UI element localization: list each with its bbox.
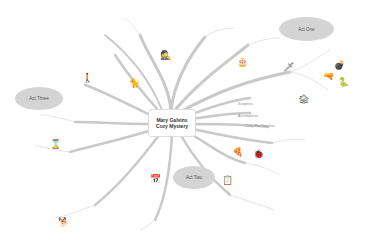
act-three-node[interactable]: Act Three xyxy=(15,87,63,110)
calendar-icon: 📅 xyxy=(150,175,161,184)
bug-icon: 🐞 xyxy=(253,150,264,159)
branch-label-suspects[interactable]: Suspects xyxy=(238,102,253,106)
cat-icon: 🐈 xyxy=(129,79,140,88)
bomb-icon: 💣 xyxy=(334,61,345,70)
central-topic-line2: Cozy Mystery xyxy=(149,123,195,129)
dog-icon: 🐕 xyxy=(58,218,69,227)
house-icon: 🏚 xyxy=(298,95,309,104)
snake-icon: 🐍 xyxy=(338,78,349,87)
knife-icon: 🗡 xyxy=(283,63,294,72)
pizza-icon: 🍕 xyxy=(232,148,243,157)
mind-map: Act One Act Three Act Two Mary Galvins C… xyxy=(0,0,371,242)
branch-label-plot-timeline[interactable]: Cozy Plot Timeline xyxy=(245,124,275,128)
act-one-node[interactable]: Act One xyxy=(279,17,334,41)
cake-icon: 🎂 xyxy=(237,58,248,67)
detective-icon: 🕵 xyxy=(160,51,171,60)
branch-label-accomplices[interactable]: Accomplices xyxy=(238,114,258,118)
hourglass-icon: ⌛ xyxy=(50,140,61,149)
act-two-node[interactable]: Act Two xyxy=(173,166,215,189)
clipboard-icon: 📋 xyxy=(222,176,233,185)
central-topic[interactable]: Mary Galvins Cozy Mystery xyxy=(148,109,196,137)
gun-icon: 🔫 xyxy=(323,72,334,81)
person-icon: 🚶 xyxy=(82,74,93,83)
